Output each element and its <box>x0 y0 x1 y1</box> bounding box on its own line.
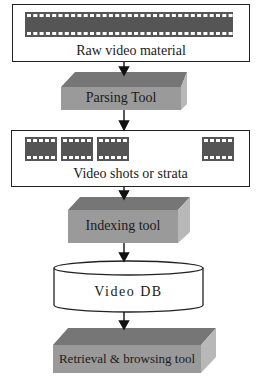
video-db-label: Video DB <box>54 284 203 300</box>
video-shots-label: Video shots or strata <box>11 166 250 182</box>
retrieval-tool-label: Retrieval & browsing tool <box>53 351 201 367</box>
indexing-tool-label: Indexing tool <box>68 218 178 234</box>
parsing-tool-label: Parsing Tool <box>61 90 181 106</box>
raw-video-label: Raw video material <box>12 43 250 59</box>
filmstrip-icon <box>25 12 233 37</box>
